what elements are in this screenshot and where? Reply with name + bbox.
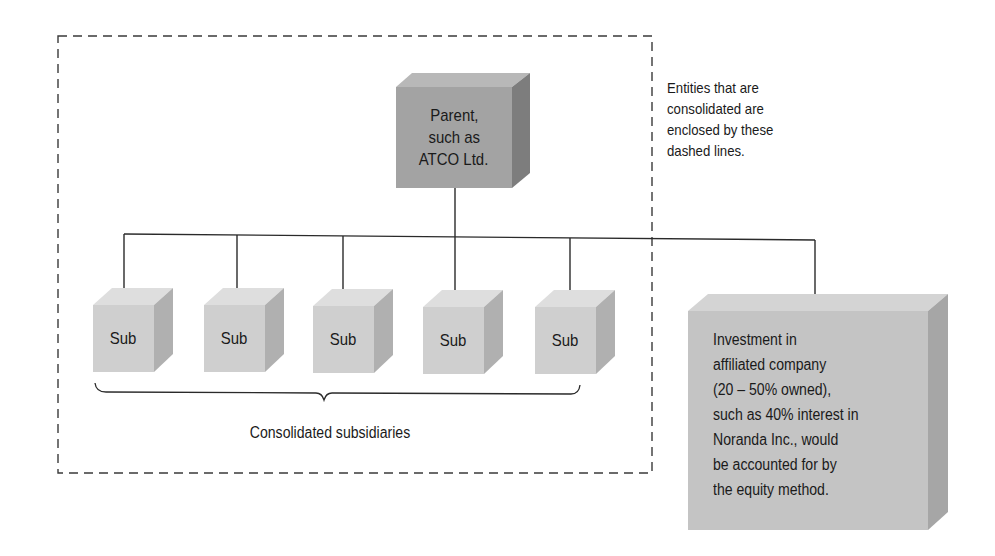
note-line-3: enclosed by these <box>667 119 773 140</box>
subsidiary-label: Sub <box>221 329 248 349</box>
subsidiary-box-3: Sub <box>313 289 393 373</box>
subsidiary-label: Sub <box>110 329 137 349</box>
subsidiary-box-4: Sub <box>423 290 503 374</box>
parent-label-line-2: such as <box>428 127 480 149</box>
subsidiary-box-5: Sub <box>535 290 615 374</box>
parent-label-wrap: Parent, such as ATCO Ltd. <box>396 87 512 188</box>
affiliate-cube-top <box>688 294 948 311</box>
affiliate-text-wrap: Investment in affiliated company (20 – 5… <box>688 311 928 530</box>
consolidation-boundary <box>58 36 652 473</box>
affiliate-text-line-7: the equity method. <box>713 477 859 502</box>
subsidiary-label: Sub <box>552 331 579 351</box>
subsidiaries-caption: Consolidated subsidiaries <box>198 424 462 442</box>
note-line-2: consolidated are <box>667 98 773 119</box>
affiliate-text-line-5: Noranda Inc., would <box>713 427 859 452</box>
subsidiaries-brace <box>95 383 580 400</box>
parent-entity-box: Parent, such as ATCO Ltd. <box>396 73 530 188</box>
affiliate-cube-side <box>928 294 948 530</box>
subsidiary-box-1: Sub <box>93 288 173 372</box>
subsidiary-box-2: Sub <box>204 288 284 372</box>
parent-label-line-1: Parent, <box>430 105 478 127</box>
affiliate-text-line-6: be accounted for by <box>713 452 859 477</box>
parent-cube-top <box>396 73 530 87</box>
subsidiary-label: Sub <box>330 330 357 350</box>
affiliate-text-line-3: (20 – 50% owned), <box>713 377 859 402</box>
subsidiary-label: Sub <box>440 331 467 351</box>
subsidiaries-caption-wrap: Consolidated subsidiaries <box>180 424 480 442</box>
affiliate-text-line-1: Investment in <box>713 327 859 352</box>
parent-cube-side <box>512 73 530 188</box>
affiliate-investment-box: Investment in affiliated company (20 – 5… <box>688 294 948 530</box>
note-line-4: dashed lines. <box>667 140 773 161</box>
note-line-1: Entities that are <box>667 77 773 98</box>
dashed-lines-note: Entities that are consolidated are enclo… <box>667 77 788 161</box>
parent-label-line-3: ATCO Ltd. <box>419 149 489 171</box>
affiliate-text-line-2: affiliated company <box>713 352 859 377</box>
affiliate-text-line-4: such as 40% interest in <box>713 402 859 427</box>
horizontal-connector-line <box>124 234 815 240</box>
